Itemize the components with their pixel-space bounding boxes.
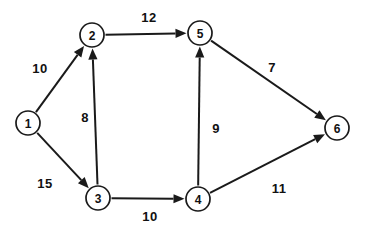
- graph-node-2[interactable]: 2: [80, 23, 104, 47]
- graph-node-5[interactable]: 5: [188, 21, 212, 45]
- graph-canvas: 1015812109711 123456: [0, 0, 366, 233]
- edge-weight-label-4-6: 11: [272, 181, 287, 196]
- node-label-6: 6: [334, 122, 341, 136]
- graph-node-4[interactable]: 4: [186, 187, 210, 211]
- arrowhead-4-to-5-icon: [195, 47, 204, 58]
- edge-weight-label-4-5: 9: [212, 121, 220, 136]
- edge-5-to-6: [211, 41, 317, 114]
- nodes-layer: 123456: [16, 21, 349, 211]
- arrowhead-1-to-2-icon: [74, 46, 84, 58]
- edge-weight-label-2-5: 12: [141, 10, 156, 25]
- graph-node-1[interactable]: 1: [16, 111, 40, 135]
- graph-diagram: 1015812109711 123456: [0, 0, 366, 233]
- edge-weight-label-3-2: 8: [81, 110, 89, 125]
- arrowhead-3-to-2-icon: [88, 48, 97, 59]
- node-label-4: 4: [195, 193, 202, 207]
- edge-3-to-4: [112, 198, 174, 199]
- graph-node-6[interactable]: 6: [325, 116, 349, 140]
- edge-4-to-5: [198, 58, 200, 186]
- edge-4-to-6: [210, 139, 315, 193]
- node-label-5: 5: [197, 27, 204, 41]
- edge-weight-label-5-6: 7: [268, 60, 276, 75]
- edges-layer: [36, 29, 326, 204]
- edge-weight-label-1-2: 10: [32, 61, 47, 76]
- edge-2-to-5: [106, 33, 176, 34]
- arrowhead-2-to-5-icon: [175, 29, 186, 38]
- node-label-3: 3: [95, 192, 102, 206]
- edge-labels-layer: 1015812109711: [32, 10, 286, 224]
- node-label-2: 2: [89, 29, 96, 43]
- edge-weight-label-3-4: 10: [142, 209, 157, 224]
- edge-1-to-3: [37, 133, 81, 180]
- arrowhead-3-to-4-icon: [173, 194, 184, 203]
- edge-3-to-2: [93, 59, 98, 184]
- graph-node-3[interactable]: 3: [86, 186, 110, 210]
- node-label-1: 1: [25, 117, 32, 131]
- edge-weight-label-1-3: 15: [37, 176, 52, 191]
- arrowhead-5-to-6-icon: [314, 110, 326, 120]
